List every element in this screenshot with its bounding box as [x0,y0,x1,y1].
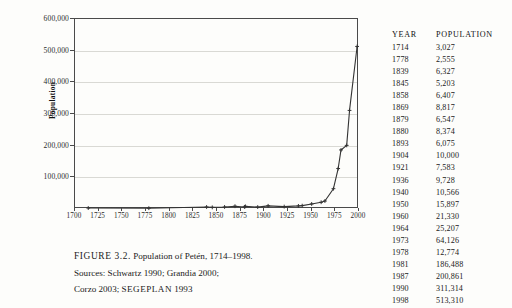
table-row: 1981186,488 [392,260,493,272]
cell-year: 1950 [392,200,436,212]
table-row: 196425,207 [392,224,493,236]
column-header-year: YEAR [392,30,436,43]
cell-population: 6,547 [436,115,493,127]
x-axis-tick-mark [145,208,146,211]
x-axis-tick-mark [287,208,288,211]
cell-year: 1960 [392,212,436,224]
data-point-marker [210,205,214,209]
table-row: 17143,027 [392,43,493,55]
cell-population: 10,566 [436,188,493,200]
table-header-row: YEAR POPULATION [392,30,493,43]
cell-population: 186,488 [436,260,493,272]
data-point-marker [300,204,304,208]
table-body: 17143,02717782,55518396,32718455,2031858… [392,43,493,308]
cell-year: 1858 [392,91,436,103]
cell-population: 2,555 [436,55,493,67]
cell-year: 1714 [392,43,436,55]
table-row: 1990311,314 [392,284,493,296]
x-axis-tick-mark [121,208,122,211]
cell-population: 6,075 [436,139,493,151]
y-axis-tick-label: 200,000 [3,140,69,149]
cell-population: 10,000 [436,151,493,163]
figure-page: Population 100,000200,000300,000400,0005… [0,0,512,308]
caption-source-segeplan-year: 1993 [172,284,192,294]
data-point-marker [319,200,323,204]
x-axis-tick-mark [98,208,99,211]
table-row: 197812,774 [392,248,493,260]
cell-year: 1990 [392,284,436,296]
plot-area [74,18,358,208]
data-point-marker [348,109,352,113]
table-row: 18586,407 [392,91,493,103]
data-point-marker [266,204,270,208]
table-row: 195015,897 [392,200,493,212]
table-row: 18936,075 [392,139,493,151]
figure-title: Population of Petén, 1714–1998. [133,251,252,261]
cell-population: 9,728 [436,176,493,188]
y-axis-tick-label: 500,000 [3,45,69,54]
x-axis-tick-mark [358,208,359,211]
cell-year: 1940 [392,188,436,200]
x-axis-tick-mark [263,208,264,211]
column-header-population: POPULATION [436,30,493,43]
cell-population: 64,126 [436,236,493,248]
table-row: 18698,817 [392,103,493,115]
cell-year: 1869 [392,103,436,115]
cell-population: 6,407 [436,91,493,103]
y-axis-tick-label: 100,000 [3,172,69,181]
data-point-marker [256,205,260,209]
cell-year: 1964 [392,224,436,236]
table-row: 18808,374 [392,127,493,139]
cell-year: 1936 [392,176,436,188]
caption-line-3: Corzo 2003; SEGEPLAN 1993 [74,281,374,298]
cell-year: 1904 [392,151,436,163]
data-point-marker [297,204,301,208]
x-axis-tick-mark [74,208,75,211]
x-axis-tick-mark [334,208,335,211]
caption-line-1: FIGURE 3.2. Population of Petén, 1714–19… [74,248,374,265]
x-axis-tick-mark [311,208,312,211]
cell-year: 1981 [392,260,436,272]
cell-population: 15,897 [436,200,493,212]
x-axis-tick-mark [240,208,241,211]
x-axis-tick-mark [192,208,193,211]
cell-population: 311,314 [436,284,493,296]
series-polyline [88,46,357,208]
cell-population: 8,374 [436,127,493,139]
cell-population: 12,774 [436,248,493,260]
data-point-marker [86,206,90,210]
cell-year: 1973 [392,236,436,248]
table-head: YEAR POPULATION [392,30,493,43]
table-row: 197364,126 [392,236,493,248]
table-row: 17782,555 [392,55,493,67]
table-row: 18396,327 [392,67,493,79]
data-point-marker [205,205,209,209]
cell-year: 1921 [392,163,436,175]
population-data-table: YEAR POPULATION 17143,02717782,55518396,… [392,30,493,308]
cell-population: 6,327 [436,67,493,79]
series-markers [86,45,359,211]
x-axis-tick-mark [216,208,217,211]
cell-population: 3,027 [436,43,493,55]
data-point-marker [233,204,237,208]
cell-year: 1893 [392,139,436,151]
data-table-element: YEAR POPULATION 17143,02717782,55518396,… [392,30,493,308]
data-point-marker [282,205,286,209]
table-row: 196021,330 [392,212,493,224]
data-point-marker [147,206,151,210]
cell-population: 25,207 [436,224,493,236]
cell-population: 5,203 [436,79,493,91]
cell-year: 1880 [392,127,436,139]
cell-year: 1998 [392,296,436,308]
data-point-marker [355,45,359,49]
data-point-marker [336,167,340,171]
cell-year: 1778 [392,55,436,67]
chart-region: Population 100,000200,000300,000400,0005… [0,0,378,250]
x-axis-tick-mark [169,208,170,211]
cell-population: 8,817 [436,103,493,115]
table-row: 19369,728 [392,176,493,188]
cell-population: 7,583 [436,163,493,175]
y-axis-tick-label: 400,000 [3,77,69,86]
cell-year: 1987 [392,272,436,284]
data-point-marker [223,205,227,209]
